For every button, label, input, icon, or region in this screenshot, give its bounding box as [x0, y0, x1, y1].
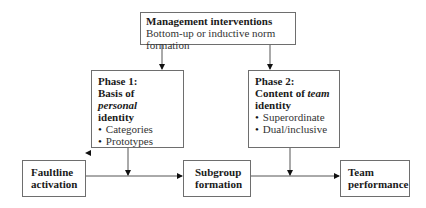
faultline-line1: Faultline	[31, 166, 85, 178]
phase2-line3: identity	[255, 99, 339, 111]
phase1-line2: Basis of	[98, 87, 183, 99]
phase1-bullets: Categories Prototypes	[98, 123, 183, 147]
phase2-line2-italic: team	[308, 87, 330, 99]
phase2-bullet: Superordinate	[255, 111, 339, 123]
management-text-1: Bottom-up or inductive norm	[146, 27, 295, 39]
phase2-box: Phase 2: Content of team identity Supero…	[248, 70, 340, 148]
faultline-line2: activation	[31, 178, 85, 190]
team-performance-box: Team performance	[340, 160, 410, 197]
faultline-activation-box: Faultline activation	[22, 160, 86, 197]
team-line1: Team	[348, 166, 409, 178]
phase1-line3: personal	[98, 99, 183, 111]
phase1-box: Phase 1: Basis of personal identity Cate…	[91, 70, 184, 148]
team-line2: performance	[348, 178, 409, 190]
phase2-line2: Content of team	[255, 87, 339, 99]
phase1-line4: identity	[98, 111, 183, 123]
phase2-bullets: Superordinate Dual/inclusive	[255, 111, 339, 135]
management-interventions-box: Management interventions Bottom-up or in…	[140, 12, 296, 45]
subgroup-line1: Subgroup	[195, 166, 250, 178]
phase1-bullet: Prototypes	[98, 135, 183, 147]
phase2-bullet: Dual/inclusive	[255, 123, 339, 135]
subgroup-line2: formation	[195, 178, 250, 190]
management-title: Management interventions	[146, 15, 295, 27]
phase1-title: Phase 1:	[98, 75, 183, 87]
feedback-arrowhead-icon	[85, 150, 91, 156]
subgroup-formation-box: Subgroup formation	[183, 160, 251, 197]
phase2-line2-pre: Content of	[255, 87, 308, 99]
phase1-bullet: Categories	[98, 123, 183, 135]
phase2-title: Phase 2:	[255, 75, 339, 87]
management-text-2: formation	[146, 39, 295, 51]
